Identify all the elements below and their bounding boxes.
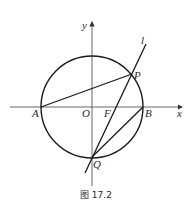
geometry-figure: y x l P A O F B Q 图 17.2 (0, 0, 195, 206)
label-point-B: B (145, 107, 152, 119)
label-origin-O: O (82, 107, 90, 119)
label-x-axis: x (176, 107, 182, 119)
line-l (85, 44, 146, 173)
label-point-P: P (133, 69, 141, 81)
label-point-Q: Q (93, 158, 101, 170)
label-line-l: l (141, 34, 144, 46)
figure-caption: 图 17.2 (80, 190, 112, 200)
label-y-axis: y (81, 19, 87, 31)
segment-QB (92, 107, 143, 157)
label-point-F: F (103, 107, 111, 119)
label-point-A: A (31, 107, 39, 119)
